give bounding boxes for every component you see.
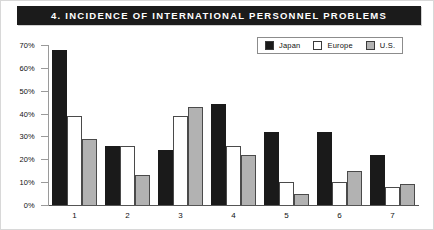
bar-group: [317, 45, 362, 205]
x-axis-label: 7: [370, 211, 416, 220]
x-axis-label: 2: [105, 211, 151, 220]
y-axis-tick: [41, 136, 49, 137]
bar-europe: [173, 116, 188, 205]
x-axis-label: 4: [211, 211, 257, 220]
bar-europe: [332, 182, 347, 205]
bar-japan: [317, 132, 332, 205]
y-axis-tick: [41, 182, 49, 183]
y-axis-label: 60%: [1, 63, 35, 72]
y-axis-tick: [41, 45, 49, 46]
y-axis-tick: [41, 159, 49, 160]
bar-europe: [385, 187, 400, 205]
y-axis-label: 50%: [1, 86, 35, 95]
y-axis-label: 20%: [1, 155, 35, 164]
y-axis-label: 0%: [1, 201, 35, 210]
bar-europe: [226, 146, 241, 205]
bar-europe: [67, 116, 82, 205]
bar-us: [135, 175, 150, 205]
bar-europe: [120, 146, 135, 205]
bar-japan: [158, 150, 173, 205]
bar-group: [370, 45, 415, 205]
bar-group: [211, 45, 256, 205]
x-axis-label: 6: [317, 211, 363, 220]
bar-group: [105, 45, 150, 205]
y-axis-line: [48, 45, 49, 205]
chart-figure: 4. INCIDENCE OF INTERNATIONAL PERSONNEL …: [0, 0, 434, 230]
bar-group: [264, 45, 309, 205]
page-title: 4. INCIDENCE OF INTERNATIONAL PERSONNEL …: [51, 10, 387, 21]
x-axis-label: 5: [264, 211, 310, 220]
y-axis-label: 10%: [1, 178, 35, 187]
bar-us: [82, 139, 97, 205]
bar-europe: [279, 182, 294, 205]
y-axis-tick: [41, 114, 49, 115]
bar-japan: [264, 132, 279, 205]
bar-us: [400, 184, 415, 205]
bar-us: [347, 171, 362, 205]
y-axis-label: 40%: [1, 109, 35, 118]
bar-group: [52, 45, 97, 205]
bar-us: [188, 107, 203, 205]
bar-us: [294, 194, 309, 205]
bar-japan: [370, 155, 385, 205]
y-axis-tick: [41, 68, 49, 69]
bar-japan: [211, 104, 226, 205]
x-axis-label: 3: [158, 211, 204, 220]
bar-japan: [105, 146, 120, 205]
y-axis-tick: [41, 91, 49, 92]
bar-us: [241, 155, 256, 205]
bar-group: [158, 45, 203, 205]
y-axis-tick: [41, 205, 49, 206]
x-axis-baseline: [48, 205, 419, 206]
bar-japan: [52, 50, 67, 205]
chart-title-banner: 4. INCIDENCE OF INTERNATIONAL PERSONNEL …: [17, 6, 421, 25]
y-axis-label: 30%: [1, 132, 35, 141]
x-axis-label: 1: [52, 211, 98, 220]
y-axis-label: 70%: [1, 41, 35, 50]
